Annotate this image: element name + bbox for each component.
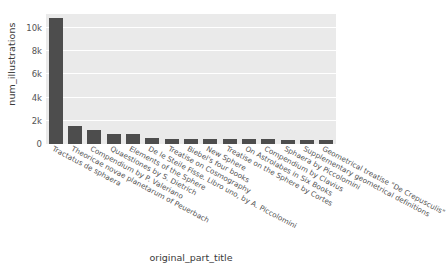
- gridline: [46, 120, 336, 121]
- y-tick-label: 10k: [2, 23, 42, 33]
- bar: [126, 134, 140, 144]
- y-tick-label: 2k: [2, 116, 42, 126]
- y-tick-label: 8k: [2, 46, 42, 56]
- y-tick-label: 4k: [2, 93, 42, 103]
- gridline: [46, 97, 336, 98]
- gridline: [46, 27, 336, 28]
- x-axis-label: original_part_title: [46, 252, 336, 263]
- gridline: [46, 50, 336, 51]
- bar: [68, 126, 82, 144]
- plot-area: [46, 14, 336, 144]
- bar: [107, 134, 121, 144]
- x-axis-tick-labels: Tractatus de sphaeraTheoricae novae plan…: [46, 144, 336, 244]
- gridline: [46, 73, 336, 74]
- y-tick-label: 6k: [2, 69, 42, 79]
- bar: [49, 18, 63, 144]
- y-tick-label: 0: [2, 139, 42, 149]
- y-axis-tick-labels: 02k4k6k8k10k: [0, 14, 42, 144]
- bar: [87, 130, 101, 144]
